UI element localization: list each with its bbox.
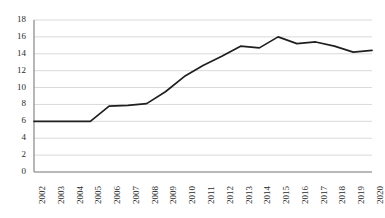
x-axis-tick-label: 2010 <box>188 186 197 204</box>
x-axis-tick-label: 2014 <box>263 186 272 204</box>
x-axis-tick-label: 2006 <box>113 186 122 204</box>
x-axis-tick-label: 2020 <box>376 186 385 204</box>
x-axis-tick-label: 2012 <box>226 186 235 204</box>
x-axis-tick-label: 2008 <box>151 186 160 204</box>
x-axis-tick-label: 2002 <box>38 186 47 204</box>
y-axis-tick-label: 12 <box>4 66 26 75</box>
x-axis-tick-label: 2013 <box>245 186 254 204</box>
y-axis-tick-label: 16 <box>4 32 26 41</box>
y-axis-tick-label: 0 <box>4 167 26 176</box>
x-axis-tick-label: 2005 <box>94 186 103 204</box>
x-axis-tick-label: 2007 <box>132 186 141 204</box>
series-line-series-1 <box>34 37 372 121</box>
x-axis-tick-label: 2016 <box>301 186 310 204</box>
x-axis-tick-label: 2015 <box>282 186 291 204</box>
y-axis-tick-label: 14 <box>4 49 26 58</box>
y-axis-tick-label: 8 <box>4 99 26 108</box>
y-axis-tick-label: 10 <box>4 83 26 92</box>
y-axis-tick-label: 6 <box>4 116 26 125</box>
data-series-line <box>34 37 372 121</box>
x-axis-tick-label: 2018 <box>338 186 347 204</box>
x-axis-tick-label: 2019 <box>357 186 366 204</box>
y-axis-tick-label: 2 <box>4 150 26 159</box>
y-axis-tick-label: 4 <box>4 133 26 142</box>
x-axis-tick-label: 2004 <box>76 186 85 204</box>
x-axis-tick-label: 2017 <box>320 186 329 204</box>
y-axis-tick-label: 18 <box>4 15 26 24</box>
x-axis-tick-label: 2003 <box>57 186 66 204</box>
x-axis-tick-label: 2009 <box>169 186 178 204</box>
x-axis-tick-label: 2011 <box>207 186 216 204</box>
